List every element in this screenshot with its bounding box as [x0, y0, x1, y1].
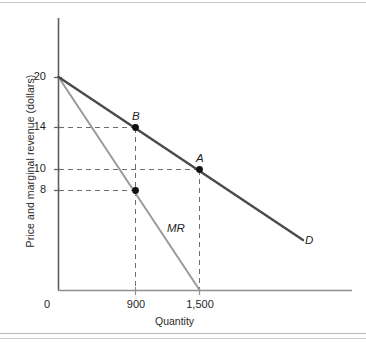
x-axis-title: Quantity — [155, 315, 194, 327]
y-tick-label-8: 8 — [20, 183, 46, 195]
data-point-mr-900 — [132, 187, 139, 194]
point-label-a: A — [196, 152, 204, 164]
y-axis-title: Price and marginal revenue (dollars) — [24, 61, 36, 261]
x-tick-label-900: 900 — [117, 298, 155, 310]
y-tick-label-10: 10 — [20, 162, 46, 174]
bottom-divider-upper — [0, 333, 366, 334]
data-point-b — [132, 124, 139, 131]
curve-label-d: D — [305, 234, 313, 246]
y-tick-label-14: 14 — [20, 120, 46, 132]
data-point-a — [196, 166, 203, 173]
mr-curve — [59, 77, 200, 290]
x-tick-label-1500: 1,500 — [177, 298, 223, 310]
figure-panel: Price and marginal revenue (dollars) Qua… — [0, 0, 366, 349]
y-tick-label-20: 20 — [20, 70, 46, 82]
bottom-divider-lower — [0, 338, 366, 339]
chart-plot-area — [0, 0, 366, 349]
x-tick-label-origin: 0 — [44, 298, 50, 310]
point-label-b: B — [132, 110, 140, 122]
demand-curve — [59, 77, 304, 240]
curve-label-mr: MR — [167, 222, 185, 234]
